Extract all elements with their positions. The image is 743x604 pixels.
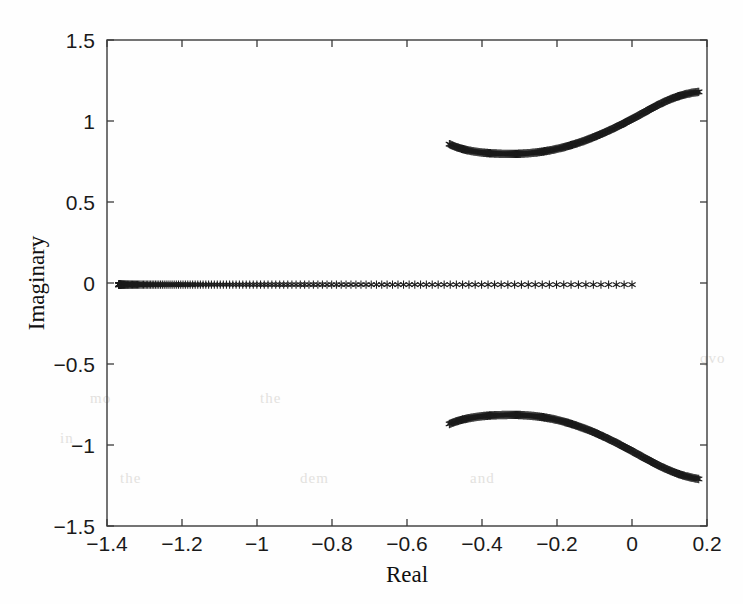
y-tick-label: 0.5 — [66, 191, 95, 214]
asterisk-marker — [284, 280, 291, 288]
asterisk-marker — [314, 280, 321, 288]
x-tick-label: −0.2 — [536, 532, 577, 555]
asterisk-marker — [435, 280, 442, 288]
asterisk-marker — [472, 280, 479, 288]
asterisk-marker — [613, 280, 620, 288]
asterisk-marker — [383, 280, 390, 288]
asterisk-marker — [532, 280, 539, 288]
asterisk-marker — [597, 280, 604, 288]
asterisk-marker — [546, 280, 553, 288]
y-tick-label: 1.5 — [66, 29, 95, 52]
asterisk-marker — [498, 280, 505, 288]
asterisk-marker — [553, 280, 560, 288]
asterisk-marker — [319, 280, 326, 288]
asterisk-marker — [264, 280, 271, 288]
asterisk-marker — [394, 280, 401, 288]
series-lower-complex-branch — [446, 411, 703, 484]
asterisk-marker — [357, 280, 364, 288]
x-axis-tick-labels: −1.4−1.2−1−0.8−0.6−0.4−0.200.2 — [86, 532, 721, 555]
asterisk-marker — [347, 280, 354, 288]
x-axis-label: Real — [386, 562, 428, 587]
root-locus-figure: qvointhedemandmothe −1.4−1.2−1−0.8−0.6−0… — [0, 0, 743, 604]
x-tick-label: −0.6 — [386, 532, 427, 555]
x-tick-label: −1 — [245, 532, 269, 555]
asterisk-marker — [484, 280, 491, 288]
x-tick-label: −0.8 — [311, 532, 352, 555]
asterisk-marker — [389, 280, 396, 288]
asterisk-marker — [560, 280, 567, 288]
asterisk-marker — [305, 280, 312, 288]
asterisk-marker — [257, 280, 264, 288]
asterisk-marker — [328, 280, 335, 288]
asterisk-marker — [301, 280, 308, 288]
asterisk-marker — [373, 280, 380, 288]
series-real-axis-branch — [115, 280, 635, 288]
plot-canvas: −1.4−1.2−1−0.8−0.6−0.4−0.200.2 −1.5−1−0.… — [0, 0, 743, 604]
asterisk-marker — [288, 280, 295, 288]
y-tick-label: −0.5 — [54, 353, 95, 376]
asterisk-marker — [511, 280, 518, 288]
y-tick-label: 1 — [83, 110, 95, 133]
asterisk-marker — [525, 280, 532, 288]
asterisk-marker — [352, 280, 359, 288]
asterisk-marker — [504, 280, 511, 288]
asterisk-marker — [491, 280, 498, 288]
asterisk-marker — [276, 280, 283, 288]
asterisk-marker — [411, 280, 418, 288]
x-tick-label: 0 — [626, 532, 638, 555]
asterisk-marker — [342, 280, 349, 288]
x-tick-label: −0.4 — [461, 532, 503, 555]
asterisk-marker — [333, 280, 340, 288]
asterisk-marker — [292, 280, 299, 288]
y-axis-label: Imaginary — [24, 235, 49, 330]
y-tick-label: 0 — [83, 272, 95, 295]
asterisk-marker — [423, 280, 430, 288]
asterisk-marker — [605, 280, 612, 288]
asterisk-marker — [362, 280, 369, 288]
asterisk-marker — [261, 280, 268, 288]
asterisk-marker — [400, 280, 407, 288]
asterisk-marker — [590, 280, 597, 288]
y-tick-label: −1.5 — [54, 515, 95, 538]
asterisk-marker — [518, 280, 525, 288]
asterisk-marker — [453, 280, 460, 288]
asterisk-marker — [628, 280, 635, 288]
asterisk-marker — [310, 280, 317, 288]
series-upper-complex-branch — [446, 88, 703, 158]
asterisk-marker — [323, 280, 330, 288]
x-tick-label: 0.2 — [692, 532, 721, 555]
asterisk-marker — [406, 280, 413, 288]
asterisk-marker — [567, 280, 574, 288]
asterisk-marker — [429, 280, 436, 288]
asterisk-marker — [272, 280, 279, 288]
asterisk-marker — [539, 280, 546, 288]
asterisk-marker — [280, 280, 287, 288]
asterisk-marker — [417, 280, 424, 288]
asterisk-marker — [441, 280, 448, 288]
asterisk-marker — [620, 280, 627, 288]
asterisk-marker — [253, 280, 260, 288]
data-series-layer — [115, 88, 702, 484]
y-axis-tick-labels: −1.5−1−0.500.511.5 — [54, 29, 95, 538]
x-tick-label: −1.2 — [161, 532, 202, 555]
asterisk-marker — [297, 280, 304, 288]
asterisk-marker — [478, 280, 485, 288]
asterisk-marker — [268, 280, 275, 288]
y-tick-label: −1 — [71, 434, 95, 457]
asterisk-marker — [575, 280, 582, 288]
asterisk-marker — [447, 280, 454, 288]
asterisk-marker — [459, 280, 466, 288]
asterisk-marker — [582, 280, 589, 288]
asterisk-marker — [378, 280, 385, 288]
asterisk-marker — [465, 280, 472, 288]
asterisk-marker — [338, 280, 345, 288]
asterisk-marker — [368, 280, 375, 288]
